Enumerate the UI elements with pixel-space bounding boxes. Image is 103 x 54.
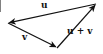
- vector-label-u-plus-v: u + v: [67, 27, 93, 36]
- vector-v-arrow: [8, 23, 56, 47]
- vector-label-v: v: [22, 33, 27, 42]
- vector-diagram: u v u + v: [0, 0, 103, 54]
- vector-label-u: u: [41, 1, 48, 10]
- vector-u-arrow: [10, 4, 97, 23]
